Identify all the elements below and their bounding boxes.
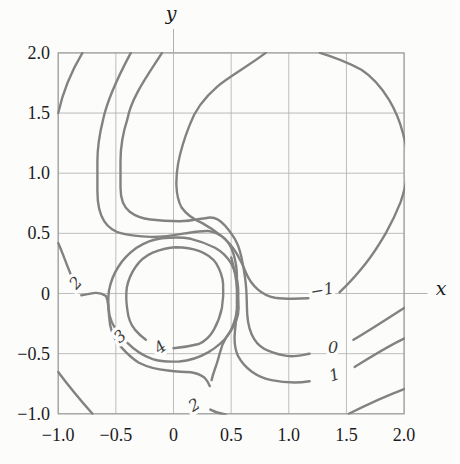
contour-label-level-4: 4 [150,336,171,358]
contour-curve-level--1 [320,53,409,161]
contour-curve-level-1 [58,372,92,414]
y-axis-letter: y [165,2,177,24]
contour-curve-level-2 [349,389,404,414]
x-tick-label: 0 [169,425,178,445]
y-tick-label: −1.0 [17,404,50,424]
y-tick-label: 1.0 [28,163,51,183]
contour-figure: −1.0−0.500.51.01.52.02.01.51.00.50−0.5−1… [0,0,460,464]
contour-curve-level-2 [58,243,71,276]
contour-curve-level-2 [58,53,82,113]
tick-labels: −1.0−0.500.51.01.52.02.01.51.00.50−0.5−1… [17,43,415,445]
contour-plot-svg: −1.0−0.500.51.01.52.02.01.51.00.50−0.5−1… [0,0,460,464]
contour-label-level-2: 2 [64,273,86,294]
y-tick-label: 0 [41,284,50,304]
x-axis-letter: x [436,277,447,299]
x-tick-label: 0.5 [220,425,243,445]
contour-curve-level-4 [126,247,223,348]
y-tick-label: 2.0 [28,43,51,63]
contour-curve-level--1 [340,173,408,292]
x-tick-label: −0.5 [100,425,133,445]
contour-curve-level-0 [353,308,404,340]
x-tick-label: −1.0 [42,425,75,445]
y-tick-label: −0.5 [17,344,50,364]
x-tick-label: 1.0 [278,425,301,445]
contour-label-level-neg1: −1 [309,278,336,301]
x-tick-label: 2.0 [393,425,416,445]
y-tick-label: 1.5 [28,103,51,123]
contour-label-level-0: 0 [328,338,338,357]
axis-lines [174,29,428,294]
y-tick-label: 0.5 [28,223,51,243]
contour-level-labels: 2342−101 [64,273,342,417]
contour-label-level-2: 2 [184,394,204,416]
x-tick-label: 1.5 [335,425,358,445]
contour-curve-level-1 [355,339,405,367]
contour-curve-level-0 [121,53,310,356]
contour-label-level-1: 1 [327,364,343,385]
